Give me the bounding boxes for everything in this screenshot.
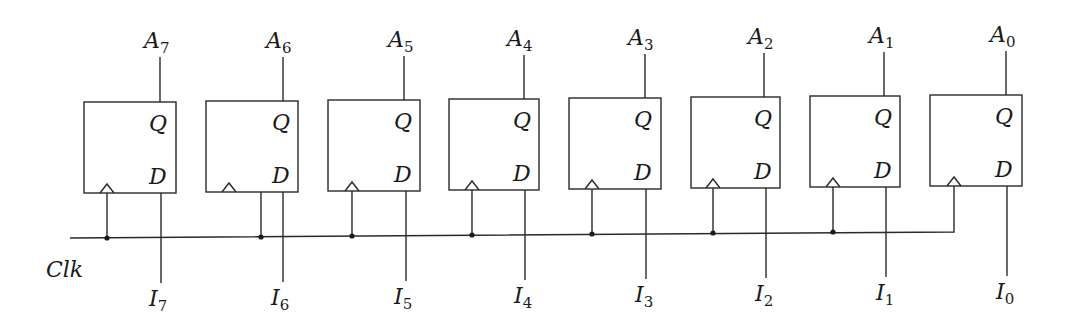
d-pin-label: D [873,158,892,183]
input-label: I4 [513,283,532,312]
input-label: I3 [634,282,653,311]
junction-dot [349,233,354,238]
flipflop-3: Q D A3 I3 [569,25,661,311]
input-label: I1 [875,280,894,309]
flipflop-2: Q D A2 I2 [691,24,780,310]
q-pin-label: Q [513,108,531,133]
d-pin-label: D [633,160,652,185]
junction-dot [104,235,109,240]
input-label: I2 [754,281,773,310]
output-label: A5 [386,27,413,56]
input-label: I7 [148,286,167,315]
input-label: I5 [393,284,412,313]
flipflop-7: Q D A7 I7 [84,28,176,315]
output-label: A2 [746,24,773,53]
d-pin-label: D [994,157,1013,182]
clock-label: Clk [46,257,83,282]
flipflop-6: Q D A6 I6 [206,28,298,314]
q-pin-label: Q [394,109,412,134]
register-diagram: Clk Q D A7 I7 Q D A6 I6 Q D A5 I5 [0,0,1068,330]
d-pin-label: D [512,161,531,186]
input-label: I6 [270,285,289,314]
flipflop-1: Q D A1 I1 [810,23,900,309]
d-pin-label: D [271,163,290,188]
q-pin-label: Q [272,110,290,135]
q-pin-label: Q [995,104,1013,129]
flipflop-0: Q D A0 I0 [930,22,1022,308]
d-pin-label: D [148,164,167,189]
output-label: A0 [988,22,1015,51]
junction-dot [710,230,715,235]
output-label: A6 [264,28,291,57]
junction-dot [589,231,594,236]
q-pin-label: Q [754,106,772,131]
output-label: A7 [142,28,169,57]
d-pin-label: D [753,159,772,184]
output-label: A4 [505,26,532,55]
input-label: I0 [995,279,1014,308]
output-label: A1 [867,23,894,52]
q-pin-label: Q [149,111,167,136]
clock-bus-wire [70,184,954,238]
output-label: A3 [626,25,653,54]
flipflop-4: Q D A4 I4 [449,26,539,312]
q-pin-label: Q [634,107,652,132]
d-pin-label: D [393,162,412,187]
junction-dot [469,232,474,237]
q-pin-label: Q [874,105,892,130]
junction-dot [258,234,263,239]
junction-dot [830,229,835,234]
flipflop-5: Q D A5 I5 [328,27,420,313]
